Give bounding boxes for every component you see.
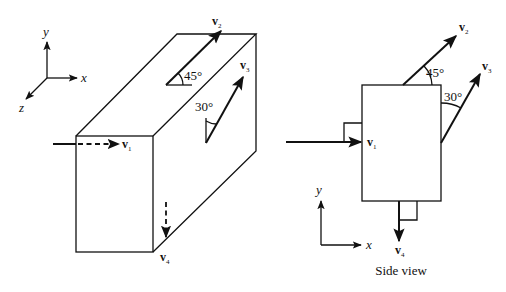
v2-angle-arc	[178, 73, 183, 85]
y-axis-label: y	[41, 24, 49, 39]
v2-side-label: v2	[459, 20, 469, 36]
v2-label: v2	[212, 14, 222, 30]
vector-v3-3d: 30° v3	[195, 58, 250, 143]
v4-right-angle-marker	[399, 201, 417, 220]
v3-side-angle-label: 30°	[444, 89, 462, 104]
side-view: v1 45° v2 30° v3 v4 y x Side	[286, 20, 492, 278]
side-x-axis-label: x	[365, 237, 372, 252]
v3-angle-label: 30°	[195, 99, 213, 114]
v3-side-label: v3	[482, 59, 492, 75]
v3-angle-arc	[206, 121, 216, 124]
v1-right-angle-marker	[344, 123, 362, 142]
axes-2d: y x	[314, 182, 372, 252]
isometric-view: y x z v1 45° v2 30°	[18, 14, 256, 266]
velocity-diagram: y x z v1 45° v2 30°	[0, 0, 506, 292]
v3-side-arrow	[441, 74, 480, 143]
v4-label: v4	[160, 250, 170, 266]
v3-label: v3	[240, 58, 250, 74]
z-axis-arrow	[26, 78, 47, 99]
box-front-face	[76, 136, 153, 252]
side-y-axis-label: y	[314, 182, 322, 197]
v4-side-label: v4	[395, 243, 405, 259]
vector-v2-side: 45° v2	[403, 20, 469, 85]
v1-label: v1	[122, 137, 132, 153]
vector-v3-side: 30° v3	[441, 59, 492, 143]
v2-angle-label: 45°	[184, 68, 202, 83]
x-axis-label: x	[80, 70, 87, 85]
v1-side-label: v1	[367, 135, 377, 151]
z-axis-label: z	[18, 100, 24, 115]
vector-v1-3d: v1	[53, 137, 132, 153]
side-view-caption: Side view	[375, 263, 427, 278]
vector-v4-side: v4	[395, 201, 417, 259]
axes-triad-3d: y x z	[18, 24, 87, 115]
vector-v4-3d: v4	[160, 202, 170, 266]
vector-v2-3d: 45° v2	[166, 14, 222, 85]
vector-v1-side: v1	[286, 123, 377, 151]
v2-side-angle-label: 45°	[426, 65, 444, 80]
